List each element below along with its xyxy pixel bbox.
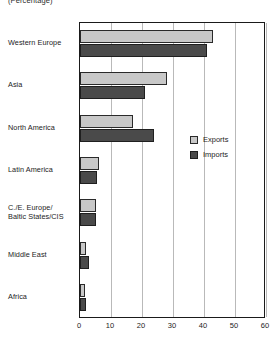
bar-group bbox=[80, 72, 266, 100]
bar-exports bbox=[80, 157, 99, 170]
x-axis-labels: 0102030405060 bbox=[79, 321, 265, 335]
chart-legend: ExportsImports bbox=[190, 135, 228, 159]
category-label: Asia bbox=[8, 81, 78, 90]
bar-imports bbox=[80, 256, 89, 269]
category-label: Latin America bbox=[8, 165, 78, 174]
category-label: Middle East bbox=[8, 250, 78, 259]
bar-imports bbox=[80, 129, 154, 142]
legend-label: Exports bbox=[203, 135, 228, 144]
category-label: North America bbox=[8, 123, 78, 132]
x-tick-label-40: 40 bbox=[199, 321, 207, 330]
legend-label: Imports bbox=[203, 150, 228, 159]
category-axis: Western EuropeAsiaNorth AmericaLatin Ame… bbox=[0, 22, 76, 318]
plot-area: ExportsImports bbox=[79, 22, 265, 318]
bar-group bbox=[80, 199, 266, 227]
gridline-60 bbox=[266, 23, 267, 317]
bar-group bbox=[80, 115, 266, 143]
bar-exports bbox=[80, 115, 133, 128]
x-tick-label-60: 60 bbox=[261, 321, 269, 330]
x-tick-label-20: 20 bbox=[137, 321, 145, 330]
bar-imports bbox=[80, 171, 97, 184]
bar-imports bbox=[80, 86, 145, 99]
legend-swatch-imports-icon bbox=[190, 151, 198, 159]
bar-group bbox=[80, 157, 266, 185]
category-label: Africa bbox=[8, 292, 78, 301]
legend-item-imports[interactable]: Imports bbox=[190, 150, 228, 159]
bar-imports bbox=[80, 44, 207, 57]
bar-exports bbox=[80, 72, 167, 85]
bar-exports bbox=[80, 284, 85, 297]
category-label: Western Europe bbox=[8, 39, 78, 48]
bar-exports bbox=[80, 199, 96, 212]
legend-swatch-exports-icon bbox=[190, 136, 198, 144]
bar-exports bbox=[80, 242, 86, 255]
x-tick-label-50: 50 bbox=[230, 321, 238, 330]
bar-group bbox=[80, 30, 266, 58]
bar-imports bbox=[80, 298, 86, 311]
x-tick-label-30: 30 bbox=[168, 321, 176, 330]
bar-exports bbox=[80, 30, 213, 43]
bar-group bbox=[80, 242, 266, 270]
chart-subtitle: (Percentage) bbox=[8, 0, 53, 5]
category-label: C./E. Europe/Baltic States/CIS bbox=[8, 203, 78, 221]
x-tick-label-10: 10 bbox=[106, 321, 114, 330]
legend-item-exports[interactable]: Exports bbox=[190, 135, 228, 144]
bar-imports bbox=[80, 213, 96, 226]
x-tick-label-0: 0 bbox=[77, 321, 81, 330]
bar-group bbox=[80, 284, 266, 312]
